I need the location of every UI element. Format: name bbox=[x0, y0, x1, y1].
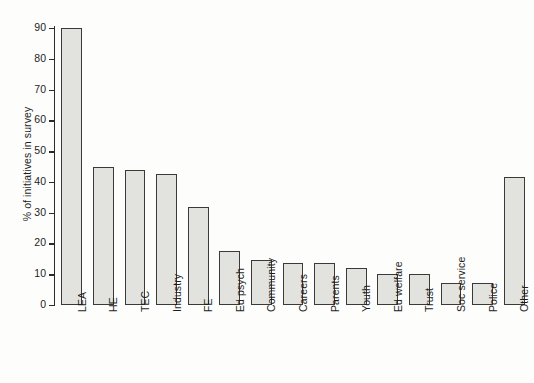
x-axis-tick-label: Youth bbox=[360, 285, 372, 312]
x-axis-tick-label: Other bbox=[518, 285, 530, 312]
x-axis-tick-label: FE bbox=[202, 298, 214, 312]
x-axis-tick-label: Industry bbox=[171, 274, 183, 312]
x-axis-tick-label: TEC bbox=[139, 291, 151, 312]
bar-chart: % of initiatives in survey 0102030405060… bbox=[0, 0, 534, 383]
x-axis-tick-label: Parents bbox=[329, 275, 341, 312]
x-axis-labels: LEAHETECIndustryFEEd psychCommunityCaree… bbox=[0, 0, 534, 383]
x-axis-tick-label: LEA bbox=[76, 292, 88, 312]
x-axis-tick-label: HE bbox=[107, 297, 119, 312]
x-axis-tick-label: Police bbox=[487, 283, 499, 312]
x-axis-tick-label: Ed psych bbox=[234, 268, 246, 312]
x-axis-tick-label: Trust bbox=[423, 288, 435, 312]
x-axis-tick-label: Ed welfare bbox=[392, 261, 404, 312]
x-axis-tick-label: Soc service bbox=[455, 257, 467, 312]
x-axis-tick-label: Careers bbox=[297, 274, 309, 312]
x-axis-tick-label: Community bbox=[265, 258, 277, 312]
